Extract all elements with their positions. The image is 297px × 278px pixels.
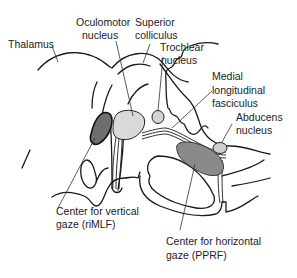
label-mlf-line1: Medial [212, 70, 243, 83]
label-trochlear-line1: Trochlear [160, 41, 204, 54]
label-horizontal-line2: gaze (PPRF) [166, 249, 227, 262]
label-vertical-line1: Center for vertical [56, 205, 139, 218]
brainstem-diagram: Thalamus Oculomotor nucleus Superior col… [0, 0, 297, 278]
label-thalamus: Thalamus [8, 38, 54, 51]
leader-mlf [172, 91, 212, 128]
rimlf-nucleus [90, 113, 112, 145]
label-vertical-line2: gaze (riMLF) [56, 218, 116, 231]
leader-oculomotor [116, 41, 133, 116]
label-trochlear-line2: nucleus [161, 54, 197, 67]
label-oculomotor-line2: nucleus [82, 29, 118, 42]
label-abducens-line2: nucleus [236, 124, 272, 137]
leader-abducens [222, 124, 232, 142]
leader-pprf [180, 164, 195, 230]
label-horizontal-line1: Center for horizontal [166, 235, 261, 248]
label-superior-line2: colliculus [135, 29, 178, 42]
label-oculomotor-line1: Oculomotor [76, 16, 130, 29]
abducens-nucleus [213, 143, 227, 154]
label-mlf-line3: fasciculus [212, 97, 258, 110]
label-abducens-line1: Abducens [236, 111, 283, 124]
label-mlf-line2: longitudinal [212, 84, 265, 97]
leader-riMLF [58, 138, 95, 208]
trochlear-nucleus [152, 111, 164, 124]
oculomotor-nucleus [113, 110, 145, 139]
label-superior-line1: Superior [135, 16, 175, 29]
